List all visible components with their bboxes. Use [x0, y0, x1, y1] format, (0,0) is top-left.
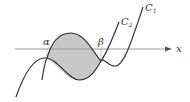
c2-label-sub: 2: [128, 21, 133, 28]
x-axis-label: x: [176, 43, 182, 54]
c1-label: C1: [145, 2, 156, 14]
beta-label: β: [97, 36, 104, 47]
c2-label: C2: [121, 16, 133, 28]
x-axis-arrow-icon: [165, 47, 172, 52]
diagram-canvas: x α β C1 C2: [0, 0, 190, 102]
c1-label-sub: 1: [153, 7, 157, 14]
alpha-label: α: [43, 36, 50, 47]
